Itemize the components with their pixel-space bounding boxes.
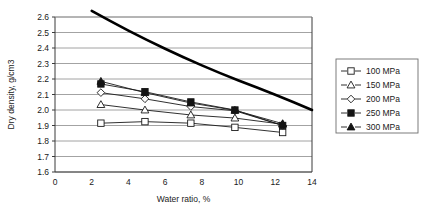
data-point xyxy=(141,95,149,103)
data-point xyxy=(279,129,285,135)
y-tick-label: 2.1 xyxy=(37,90,49,100)
legend-label: 300 MPa xyxy=(366,122,400,132)
legend-label: 100 MPa xyxy=(366,66,400,76)
legend-item-100-mpa[interactable]: 100 MPa xyxy=(341,66,400,76)
x-tick-label: 4 xyxy=(126,177,131,187)
x-tick-label: 12 xyxy=(271,177,281,187)
y-tick-label: 2.5 xyxy=(37,28,49,38)
y-tick-label: 2.6 xyxy=(37,12,49,22)
x-tick-label: 6 xyxy=(163,177,168,187)
legend-label: 150 MPa xyxy=(366,80,400,90)
data-point xyxy=(232,124,238,130)
y-tick-label: 1.8 xyxy=(37,136,49,146)
y-tick-label: 2.0 xyxy=(37,105,49,115)
chart-figure: 1.61.71.81.92.02.12.22.32.42.52.60246810… xyxy=(0,0,424,213)
legend-marker xyxy=(348,68,354,74)
legend-label: 200 MPa xyxy=(366,94,400,104)
dry-density-vs-water-ratio-chart: 1.61.71.81.92.02.12.22.32.42.52.60246810… xyxy=(0,0,424,213)
y-tick-label: 2.4 xyxy=(37,43,49,53)
y-tick-label: 1.9 xyxy=(37,121,49,131)
x-tick-label: 10 xyxy=(234,177,244,187)
y-tick-label: 1.7 xyxy=(37,152,49,162)
y-axis-title: Dry density, g/cm3 xyxy=(6,59,16,129)
y-tick-label: 2.3 xyxy=(37,59,49,69)
y-tick-label: 2.2 xyxy=(37,74,49,84)
x-tick-label: 8 xyxy=(199,177,204,187)
y-tick-label: 1.6 xyxy=(37,167,49,177)
data-point xyxy=(188,120,194,126)
data-point xyxy=(97,89,105,97)
x-tick-label: 14 xyxy=(307,177,317,187)
data-point xyxy=(98,120,104,126)
legend-item-250-mpa[interactable]: 250 MPa xyxy=(341,108,400,118)
data-point xyxy=(97,101,105,108)
x-tick-label: 0 xyxy=(53,177,58,187)
data-point xyxy=(142,118,148,124)
x-axis-title: Water ratio, % xyxy=(157,194,211,204)
legend-label: 250 MPa xyxy=(366,108,400,118)
x-tick-label: 2 xyxy=(89,177,94,187)
saturation-curve xyxy=(92,11,312,110)
series-300-mpa xyxy=(97,77,287,126)
legend-marker xyxy=(348,110,354,116)
